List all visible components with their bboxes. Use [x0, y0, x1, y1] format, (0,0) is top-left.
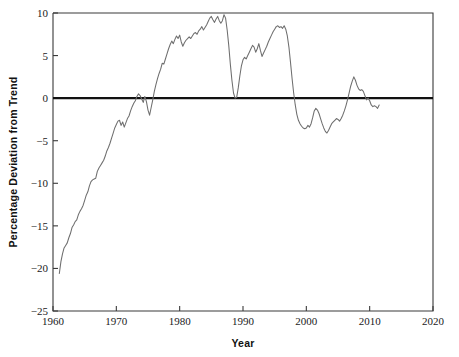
y-tick-label: 0 — [43, 92, 49, 104]
y-tick-label: 10 — [37, 7, 49, 19]
x-tick-label: 1980 — [169, 315, 192, 327]
y-tick-label: −15 — [31, 220, 49, 232]
x-tick-label: 1990 — [232, 315, 255, 327]
line-chart: 1960197019801990200020102020 1050−5−10−1… — [0, 0, 459, 357]
x-axis-tick-labels: 1960197019801990200020102020 — [42, 315, 445, 327]
y-axis-tick-labels: 1050−5−10−15−20−25 — [31, 7, 49, 317]
y-tick-label: −20 — [31, 262, 49, 274]
x-axis-title: Year — [232, 337, 255, 349]
y-tick-label: −5 — [36, 135, 48, 147]
x-tick-label: 2020 — [422, 315, 445, 327]
x-tick-label: 1970 — [105, 315, 128, 327]
x-tick-label: 2010 — [359, 315, 382, 327]
plot-background — [53, 13, 433, 311]
y-tick-label: 5 — [43, 50, 49, 62]
y-tick-label: −25 — [31, 305, 49, 317]
y-tick-label: −10 — [31, 177, 49, 189]
y-axis-title: Percentage Deviation from Trend — [7, 77, 19, 248]
chart-figure: 1960197019801990200020102020 1050−5−10−1… — [0, 0, 459, 357]
x-tick-label: 2000 — [295, 315, 318, 327]
